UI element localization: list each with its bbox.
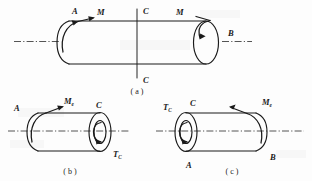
torque-arrowhead-right-a bbox=[200, 34, 206, 40]
label-c-bottom-end: A bbox=[185, 160, 192, 170]
label-a-section-bottom: C bbox=[143, 75, 149, 85]
cut-face-outer-b bbox=[89, 113, 111, 152]
label-a-right-end: B bbox=[227, 28, 234, 38]
label-b-section: C bbox=[96, 100, 102, 110]
torque-arrow-left-a bbox=[62, 22, 78, 53]
panel-a: A M C M B C ( a ) bbox=[14, 6, 252, 96]
caption-c: ( c ) bbox=[226, 167, 239, 176]
torsion-figure: A M C M B C ( a ) A Me C TC ( b ) bbox=[0, 0, 312, 181]
label-c-right-end: B bbox=[269, 152, 276, 162]
label-a-section-top: C bbox=[143, 6, 149, 16]
label-c-internal-torque: TC bbox=[163, 102, 172, 113]
panel-b: A Me C TC ( b ) bbox=[8, 96, 130, 176]
label-c-applied-torque: Me bbox=[261, 97, 273, 108]
panel-c: TC C A Me B ( c ) bbox=[156, 97, 304, 176]
label-a-left-torque: M bbox=[96, 7, 105, 17]
shaft-left-cap-a bbox=[57, 21, 69, 64]
applied-torque-arrow-b bbox=[31, 113, 46, 142]
label-b-left-end: A bbox=[13, 103, 20, 113]
cut-face-outer-c bbox=[175, 113, 197, 152]
caption-a: ( a ) bbox=[131, 87, 144, 96]
label-a-right-torque: M bbox=[175, 7, 184, 17]
caption-b: ( b ) bbox=[63, 167, 77, 176]
applied-torque-arrow-c bbox=[247, 114, 262, 144]
label-b-internal-torque: TC bbox=[113, 149, 122, 160]
label-c-section: C bbox=[190, 98, 196, 108]
torque-arrow-right-tail-a bbox=[196, 17, 210, 21]
applied-torque-arrowhead-b bbox=[57, 106, 64, 111]
shaft-right-face-a bbox=[194, 21, 219, 64]
label-a-left-end: A bbox=[71, 6, 78, 16]
label-b-applied-torque: Me bbox=[63, 96, 75, 107]
